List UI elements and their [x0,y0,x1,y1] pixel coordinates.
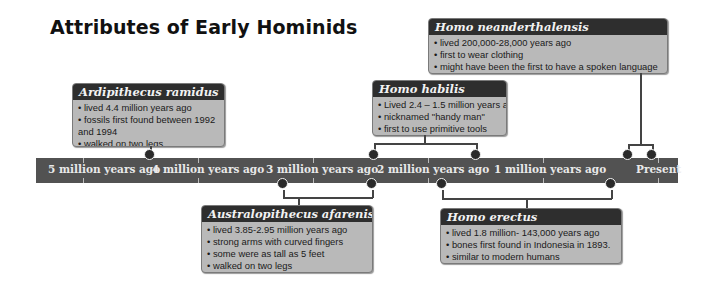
hominid-card-australopithecus: Australopithecus afarenis • lived 3.85-2… [201,205,373,273]
hominid-fact: and 1994 [78,126,219,138]
hominid-fact: • lived 1.8 million- 143,000 years ago [446,227,616,239]
hominid-fact: • might have been the first to have a sp… [434,61,662,73]
timeline-label-present: Present [636,163,681,175]
hominid-name: Homo habilis [373,81,506,97]
hominid-fact: • lived 200,000-28,000 years ago [434,37,662,49]
timeline-label-3mya: 3 million years ago [266,163,378,175]
connector-line [283,197,373,199]
timeline-label-1mya: 1 million years ago [494,163,606,175]
hominid-fact: • strong arms with curved fingers [207,236,367,248]
hominid-name: Homo erectus [441,209,621,225]
connector-line [526,198,528,208]
hominid-fact: • first to use primitive tools [378,123,501,135]
hominid-card-homo-neanderthalensis: Homo neanderthalensis • lived 200,000-28… [428,18,668,74]
timeline-marker-dot [622,149,633,160]
timeline-marker-dot [144,149,155,160]
hominid-name: Homo neanderthalensis [429,19,667,35]
hominid-fact: • lived 4.4 million years ago [78,102,219,114]
hominid-card-homo-habilis: Homo habilis • Lived 2.4 – 1.5 million y… [372,80,507,136]
hominid-fact: • lived 3.85-2.95 million years ago [207,224,367,236]
hominid-fact: • walked on two legs [207,260,367,272]
timeline-label-5mya: 5 million years ago [48,163,160,175]
timeline-bar: 5 million years ago 4 million years ago … [36,158,678,183]
connector-line [628,144,653,146]
hominid-fact: • similar to modern humans [446,251,616,263]
hominid-fact: • fossils first found between 1992 [78,114,219,126]
hominid-fact: • bones first found in Indonesia in 1893… [446,239,616,251]
hominid-fact: • some were as tall as 5 feet [207,248,367,260]
timeline-marker-dot [470,149,481,160]
timeline-marker-dot [436,178,447,189]
timeline-marker-dot [366,178,377,189]
connector-line [640,73,642,145]
connector-line [374,143,477,145]
timeline-marker-dot [368,149,379,160]
hominid-name: Australopithecus afarenis [202,206,372,222]
page-title: Attributes of Early Hominids [50,16,357,38]
timeline-marker-dot [277,178,288,189]
hominid-fact: • nicknamed "handy man" [378,111,501,123]
timeline-label-2mya: 2 million years ago [377,163,489,175]
hominid-fact: • walked on two legs [78,138,219,147]
timeline-marker-dot [605,178,616,189]
timeline-marker-dot [646,149,657,160]
timeline-label-4mya: 4 million years ago [152,163,264,175]
hominid-name: Ardipithecus ramidus [73,84,224,100]
hominid-card-ardipithecus: Ardipithecus ramidus • lived 4.4 million… [72,83,225,147]
hominid-fact: • first to wear clothing [434,49,662,61]
hominid-fact: • Lived 2.4 – 1.5 million years ago [378,99,501,111]
hominid-card-homo-erectus: Homo erectus • lived 1.8 million- 143,00… [440,208,622,264]
